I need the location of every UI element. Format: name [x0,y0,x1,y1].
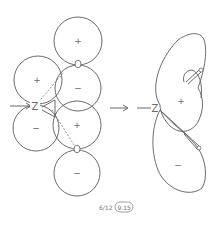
sign-label: + [74,36,82,46]
right-orbital-diagram: Z + − [152,34,206,193]
oxygen-atom-upper [199,68,203,72]
oxygen-atom-lower [74,145,80,153]
sign-label: + [177,96,185,106]
left-orbital-diagram: + − + − + − Z [10,17,102,196]
sign-label: + [33,75,41,85]
oxygen-atom-upper [75,60,81,68]
oxygen-atom-lower [197,146,201,150]
z-atom-label: Z [32,101,39,112]
transformation-arrow [110,105,151,111]
caption-date: 6/12 [99,204,113,211]
bond-line-lower [184,134,198,150]
caption: 6/12 9.15 [99,202,133,212]
upper-lobe [156,34,206,132]
sign-label: − [32,123,40,133]
z-atom-label: Z [152,103,159,114]
figure-number: 9.15 [118,204,132,211]
sign-label: − [174,160,182,170]
sign-label: − [74,83,82,93]
sign-label: − [73,168,81,178]
sign-label: + [73,120,81,130]
orbital-diagram: + − + − + − Z Z + − 6/12 9.15 [0,0,215,229]
